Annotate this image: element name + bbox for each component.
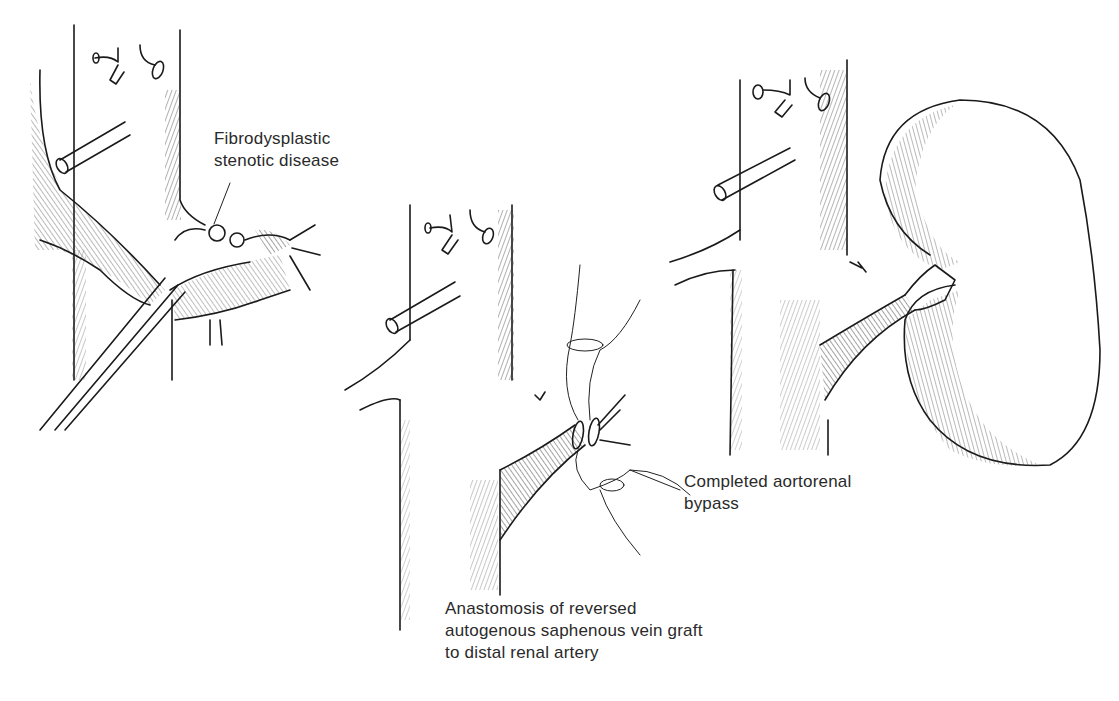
stenotic-renal-artery [170, 225, 320, 345]
leader-line-1 [214, 183, 230, 224]
celiac-branch-3 [753, 78, 832, 117]
vascular-clamp [40, 278, 185, 430]
kidney [880, 100, 1100, 466]
vein-graft-2 [500, 392, 630, 540]
label-fibrodysplastic-disease: Fibrodysplastic stenotic disease [214, 128, 339, 172]
celiac-branch-2 [425, 210, 495, 254]
panel-2-drawing [345, 205, 690, 630]
panel-1-drawing [30, 25, 320, 430]
ligated-stump-3 [850, 262, 866, 272]
label-line: Anastomosis of reversed [445, 598, 703, 620]
illustration-artwork [0, 0, 1119, 701]
stay-sutures [566, 265, 690, 555]
aorta-3 [730, 60, 848, 455]
vein-stub-1 [54, 122, 130, 175]
renal-vein-2 [345, 340, 410, 410]
vein-stub-2 [384, 282, 460, 335]
label-anastomosis-vein-graft: Anastomosis of reversed autogenous saphe… [445, 598, 703, 664]
label-line: Completed aortorenal [684, 471, 851, 493]
renal-vein-1 [30, 70, 165, 305]
label-line: autogenous saphenous vein graft [445, 620, 703, 642]
leader-line-3 [630, 470, 680, 490]
label-line: stenotic disease [214, 150, 339, 172]
aorta-1 [72, 25, 205, 380]
vein-stub-3 [712, 148, 795, 202]
renal-vein-3 [670, 230, 740, 285]
aorta-2 [400, 205, 514, 630]
label-line: bypass [684, 493, 851, 515]
surgical-illustration: Fibrodysplastic stenotic disease Anastom… [0, 0, 1119, 701]
panel-3-drawing [630, 60, 1100, 490]
celiac-branch-1 [93, 45, 166, 84]
label-completed-bypass: Completed aortorenal bypass [684, 471, 851, 515]
label-line: Fibrodysplastic [214, 128, 339, 150]
label-line: to distal renal artery [445, 642, 703, 664]
